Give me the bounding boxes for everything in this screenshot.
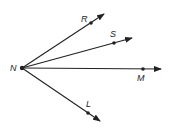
label-m: M: [137, 73, 145, 83]
rays: [22, 14, 161, 121]
label-l: L: [86, 99, 91, 109]
rays-diagram: RSMLN: [0, 0, 172, 131]
label-r: R: [81, 14, 88, 24]
labels: RSMLN: [10, 14, 145, 109]
point-n-vertex: [20, 66, 24, 70]
point-l: [86, 111, 90, 115]
point-m: [141, 67, 145, 71]
point-r: [89, 21, 93, 25]
point-s: [112, 41, 116, 45]
ray-nm: [22, 68, 161, 69]
label-n: N: [10, 63, 17, 73]
label-s: S: [110, 29, 116, 39]
